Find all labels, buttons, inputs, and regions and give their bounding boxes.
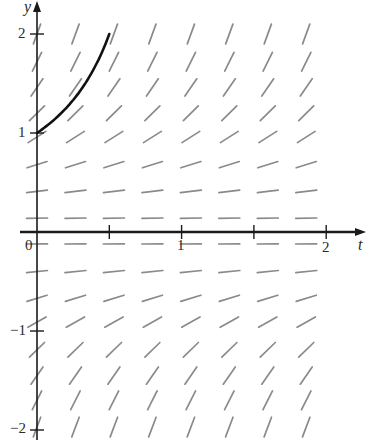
slope-segment <box>66 162 86 168</box>
slope-segment <box>225 52 234 71</box>
t-tick-label-2: 2 <box>322 239 330 255</box>
slope-segment <box>300 79 312 96</box>
slope-segment <box>149 24 156 44</box>
slope-segment <box>65 190 86 192</box>
y-tick-label-minus-2: −2 <box>10 420 26 436</box>
slope-segment <box>183 343 198 358</box>
slope-segment <box>222 106 237 121</box>
slope-segment <box>70 367 82 384</box>
slope-segment <box>68 343 83 358</box>
slope-segment <box>181 295 201 301</box>
slope-segment <box>104 271 125 273</box>
t-tick-label-0: 0 <box>25 237 33 253</box>
slope-segment <box>149 417 156 437</box>
y-tick-label-1: 1 <box>18 124 26 140</box>
slope-segment <box>219 295 239 301</box>
slope-segment <box>142 271 163 273</box>
slope-segment <box>257 190 278 192</box>
slope-segment <box>262 367 274 384</box>
slope-segment <box>296 271 317 273</box>
slope-segment <box>264 24 271 44</box>
slope-field-plot: y t 2 1 −1 −2 0 1 2 <box>0 0 378 440</box>
slope-segment <box>186 52 195 71</box>
slope-segment <box>107 106 122 121</box>
slope-segment <box>145 343 160 358</box>
slope-segment <box>110 417 117 437</box>
slope-segment <box>296 162 316 168</box>
slope-segment <box>142 162 162 168</box>
slope-segment <box>147 79 159 96</box>
y-tick-label-2: 2 <box>18 25 26 41</box>
slope-segment <box>296 295 316 301</box>
slope-segment <box>226 24 233 44</box>
slope-field-diagram: y t 2 1 −1 −2 0 1 2 <box>0 0 378 440</box>
slope-segment <box>220 317 238 327</box>
y-axis-arrow-icon <box>33 1 41 12</box>
direction-field-segments <box>27 24 317 437</box>
slope-segment <box>182 317 200 327</box>
slope-segment <box>264 417 271 437</box>
slope-segment <box>220 131 238 142</box>
slope-segment <box>143 317 161 327</box>
slope-segment <box>71 52 80 71</box>
slope-segment <box>223 79 235 96</box>
slope-segment <box>297 317 315 327</box>
slope-segment <box>296 190 317 192</box>
slope-segment <box>185 79 197 96</box>
slope-segment <box>183 106 198 121</box>
x-axis-arrow-icon <box>355 228 366 236</box>
t-axis-label: t <box>358 236 363 253</box>
slope-segment <box>222 343 237 358</box>
slope-segment <box>148 52 157 71</box>
slope-segment <box>72 417 79 437</box>
slope-segment <box>180 271 201 273</box>
slope-segment <box>303 24 310 44</box>
solution-curve <box>37 34 109 133</box>
slope-segment <box>300 367 312 384</box>
slope-segment <box>67 131 85 142</box>
slope-segment <box>110 24 117 44</box>
slope-segment <box>303 417 310 437</box>
slope-segment <box>105 317 123 327</box>
slope-segment <box>145 106 160 121</box>
slope-segment <box>108 367 120 384</box>
slope-segment <box>187 417 194 437</box>
slope-segment <box>66 317 84 327</box>
slope-segment <box>65 271 86 273</box>
slope-segment <box>258 295 278 301</box>
slope-segment <box>263 391 273 410</box>
t-tick-label-1: 1 <box>177 237 185 253</box>
slope-segment <box>299 343 314 358</box>
y-tick-label-minus-1: −1 <box>10 322 26 338</box>
slope-segment <box>104 162 124 168</box>
slope-segment <box>185 367 197 384</box>
slope-segment <box>219 271 240 273</box>
slope-segment <box>180 190 201 192</box>
slope-segment <box>225 391 235 410</box>
slope-segment <box>302 52 311 71</box>
slope-segment <box>105 131 123 142</box>
slope-segment <box>146 367 158 384</box>
slope-segment <box>109 391 119 410</box>
slope-segment <box>186 391 196 410</box>
slope-segment <box>259 131 277 142</box>
slope-segment <box>71 391 81 410</box>
slope-segment <box>219 190 240 192</box>
slope-segment <box>72 24 79 44</box>
slope-segment <box>142 190 163 192</box>
slope-segment <box>104 190 125 192</box>
slope-segment <box>257 271 278 273</box>
slope-segment <box>258 162 278 168</box>
slope-segment <box>259 317 277 327</box>
slope-segment <box>226 417 233 437</box>
slope-segment <box>219 162 239 168</box>
slope-segment <box>68 106 83 121</box>
slope-segment <box>262 79 274 96</box>
slope-segment <box>297 131 315 142</box>
slope-segment <box>182 131 200 142</box>
slope-segment <box>302 391 312 410</box>
slope-segment <box>142 295 162 301</box>
slope-segment <box>181 162 201 168</box>
slope-segment <box>65 295 85 301</box>
slope-segment <box>109 52 118 71</box>
